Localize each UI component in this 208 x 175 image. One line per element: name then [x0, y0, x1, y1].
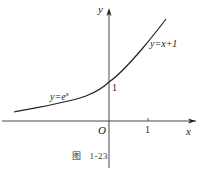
x-tick-label: 1	[145, 125, 150, 135]
y-axis-label: y	[98, 4, 103, 15]
exp-label-base: y=e	[50, 91, 66, 102]
x-axis-label: x	[186, 126, 191, 137]
y-tick-label: 1	[112, 83, 117, 93]
caption-figure-number: 1-23	[90, 151, 109, 161]
caption-figure-word: 图	[72, 151, 82, 161]
linear-curve-label: y=x+1	[150, 39, 177, 49]
curve-linear	[109, 19, 166, 82]
exp-curve-label: y=ex	[50, 91, 69, 102]
exp-label-superscript: x	[66, 90, 69, 98]
origin-label: O	[98, 125, 106, 136]
figure-caption: 图1-23	[72, 149, 116, 162]
